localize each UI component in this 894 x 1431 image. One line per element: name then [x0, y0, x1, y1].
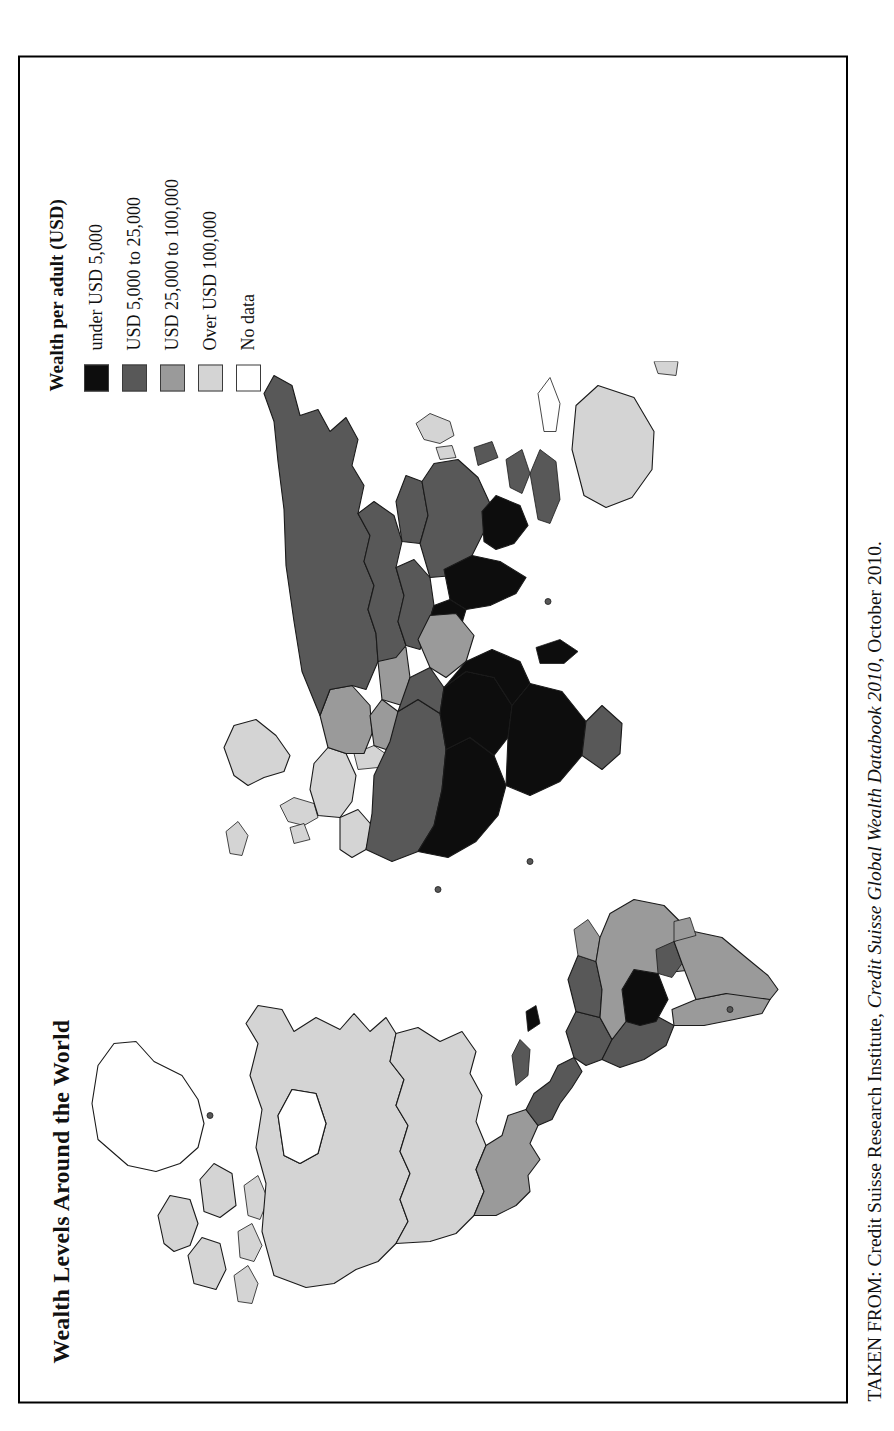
- region-argentina: [674, 931, 778, 999]
- region-philippines: [474, 441, 498, 465]
- region-japan: [416, 413, 454, 443]
- legend-item-label: USD 25,000 to 100,000: [162, 178, 183, 350]
- region-southern-africa: [506, 683, 586, 795]
- region-island-dot-1: [435, 886, 441, 892]
- region-ireland: [290, 823, 310, 843]
- region-madagascar: [536, 639, 578, 663]
- caption-prefix: TAKEN FROM: Credit Suisse Research Insti…: [864, 1008, 885, 1401]
- region-guianas: [574, 919, 600, 961]
- figure-frame: Wealth Levels Around the World Wealth pe…: [18, 55, 848, 1403]
- world-choropleth-map: [78, 361, 838, 1361]
- region-new-zealand: [654, 361, 678, 375]
- region-hispaniola: [526, 1005, 540, 1031]
- legend-title: Wealth per adult (USD): [46, 91, 68, 391]
- legend-item-5000-25000: USD 5,000 to 25,000: [122, 91, 147, 391]
- region-south-africa: [582, 705, 622, 769]
- region-canada-arctic-3: [200, 1163, 236, 1217]
- region-indonesia: [530, 449, 560, 523]
- region-cuba: [512, 1039, 530, 1085]
- region-canada-arctic-4: [234, 1265, 258, 1303]
- region-scandinavia: [224, 719, 290, 785]
- region-island-dot-2: [527, 858, 533, 864]
- region-southeast-asia: [482, 495, 528, 549]
- region-western-europe: [310, 747, 356, 817]
- region-korea: [436, 445, 456, 459]
- region-borneo: [506, 449, 530, 493]
- region-iceland: [226, 821, 248, 855]
- legend-item-over-100000: Over USD 100,000: [198, 91, 223, 391]
- map-svg: [78, 361, 838, 1361]
- caption-title-italic: Credit Suisse Global Wealth Databook 201…: [864, 662, 885, 1008]
- region-new-guinea: [538, 377, 560, 431]
- figure-title: Wealth Levels Around the World: [48, 1019, 75, 1363]
- legend-item-label: under USD 5,000: [86, 224, 107, 351]
- map-legend: Wealth per adult (USD) under USD 5,000 U…: [46, 91, 274, 391]
- rotation-wrapper: Wealth Levels Around the World Wealth pe…: [0, 0, 894, 1431]
- region-canada-arctic-1: [158, 1195, 198, 1251]
- legend-item-label: USD 5,000 to 25,000: [124, 196, 145, 350]
- region-mexico: [474, 1109, 540, 1215]
- region-canada: [246, 1005, 410, 1287]
- legend-item-no-data: No data: [236, 91, 261, 391]
- region-canada-arctic-5: [238, 1223, 262, 1261]
- region-island-dot-5: [207, 1112, 213, 1118]
- region-australia: [572, 385, 654, 507]
- region-united-kingdom: [280, 797, 318, 825]
- legend-item-label: Over USD 100,000: [200, 211, 221, 351]
- region-island-dot-3: [727, 1006, 733, 1012]
- region-russia: [264, 375, 378, 715]
- landscape-figure: Wealth Levels Around the World Wealth pe…: [0, 0, 894, 1431]
- region-central-america: [526, 1057, 582, 1125]
- figure-page: Wealth Levels Around the World Wealth pe…: [0, 0, 894, 1431]
- legend-item-under-5000: under USD 5,000: [84, 91, 109, 391]
- region-island-dot-4: [545, 598, 551, 604]
- region-greenland: [92, 1041, 204, 1171]
- source-caption: TAKEN FROM: Credit Suisse Research Insti…: [864, 541, 886, 1401]
- caption-suffix: , October 2010.: [864, 541, 885, 662]
- legend-item-25000-100000: USD 25,000 to 100,000: [160, 91, 185, 391]
- region-canada-arctic-2: [188, 1237, 226, 1289]
- legend-item-label: No data: [238, 294, 259, 350]
- region-india: [444, 555, 526, 609]
